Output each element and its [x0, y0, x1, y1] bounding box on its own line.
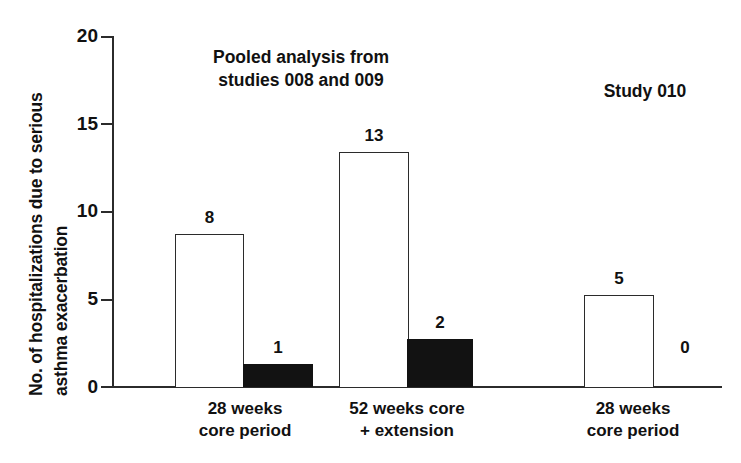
- bar-value-group2-filled: 2: [407, 313, 473, 333]
- bar-value-group1-open: 8: [175, 208, 244, 228]
- bar-value-group2-open: 13: [339, 126, 409, 146]
- y-axis-tick-labels: 20 15 10 5 0: [50, 0, 98, 400]
- bar-value-group1-filled: 1: [243, 338, 313, 358]
- y-tick-label-5: 5: [58, 288, 98, 310]
- x-tick-label-group2: 52 weeks core + extension: [322, 398, 492, 442]
- bar-group3-open: [584, 295, 654, 387]
- x-tick-label-group3: 28 weeks core period: [548, 398, 718, 442]
- bar-value-group3-filled: 0: [652, 338, 718, 358]
- y-axis-line: [112, 36, 114, 387]
- y-tick-label-15: 15: [58, 113, 98, 135]
- x-tick-label-group1: 28 weeks core period: [160, 398, 330, 442]
- bar-group1-filled: [243, 364, 313, 387]
- bar-group2-filled: [407, 339, 473, 387]
- bar-value-group3-open: 5: [584, 269, 654, 289]
- y-tick-label-10: 10: [58, 200, 98, 222]
- annotation-pooled-analysis: Pooled analysis from studies 008 and 009: [176, 46, 426, 92]
- annotation-study-010: Study 010: [560, 80, 730, 103]
- y-tick-label-20: 20: [58, 25, 98, 47]
- y-tick-label-0: 0: [58, 376, 98, 398]
- bar-chart-figure: No. of hospitalizations due to serious a…: [0, 0, 741, 463]
- bar-group2-open: [339, 152, 409, 387]
- y-axis-label-line-1: No. of hospitalizations due to serious: [26, 92, 47, 396]
- bar-group1-open: [175, 234, 244, 387]
